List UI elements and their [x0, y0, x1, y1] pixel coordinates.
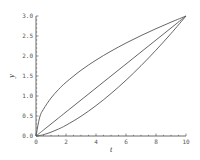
y-tick-label: 0.0 [22, 132, 33, 139]
y-tick-label: 3.0 [22, 12, 33, 19]
series-line-1 [36, 16, 186, 136]
y-axis-label: y [7, 74, 16, 79]
x-axis-label: t [110, 145, 113, 154]
x-tick-label: 0 [34, 138, 38, 145]
ticks: 02468100.00.51.01.52.02.53.0 [22, 12, 190, 145]
curves [36, 16, 186, 136]
y-tick-label: 1.5 [22, 72, 33, 79]
x-tick-label: 4 [94, 138, 98, 145]
y-tick-label: 2.0 [22, 52, 33, 59]
x-tick-label: 2 [64, 138, 68, 145]
line-chart: 02468100.00.51.01.52.02.53.0 t y [0, 0, 200, 160]
y-tick-label: 1.0 [22, 92, 33, 99]
x-tick-label: 10 [182, 138, 190, 145]
x-tick-label: 6 [124, 138, 128, 145]
x-tick-label: 8 [154, 138, 158, 145]
y-tick-label: 0.5 [22, 112, 33, 119]
y-tick-label: 2.5 [22, 32, 33, 39]
